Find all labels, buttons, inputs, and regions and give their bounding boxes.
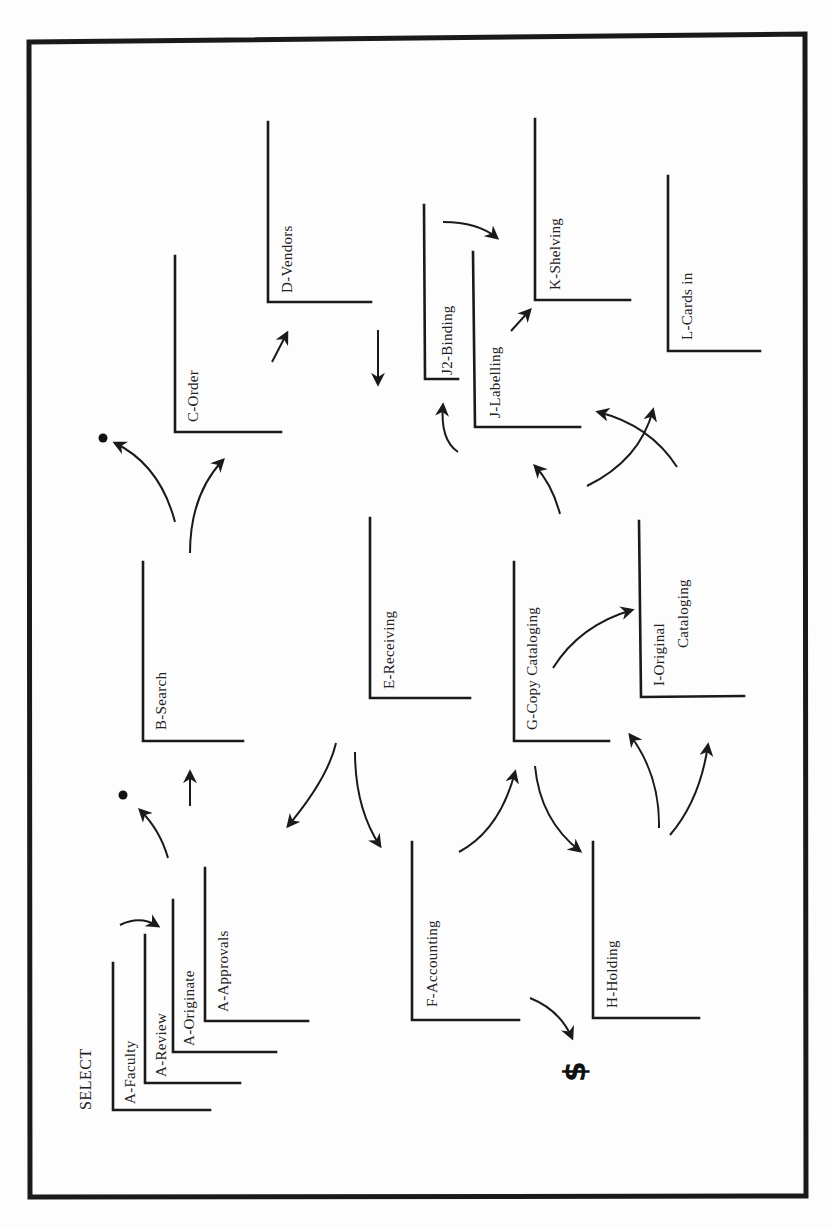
arrow-icon bbox=[630, 735, 659, 828]
arrow-icon bbox=[670, 745, 708, 835]
arrow-icon bbox=[443, 222, 497, 238]
station-label: E-Receiving bbox=[381, 611, 397, 689]
station-label: A-Review bbox=[153, 1013, 169, 1077]
station-label: J-Labelling bbox=[487, 346, 503, 418]
station-j2-binding: J2-Binding bbox=[424, 205, 458, 379]
station-label: H-Holding bbox=[604, 940, 620, 1008]
arrow-icon bbox=[530, 998, 572, 1038]
arrow-icon bbox=[355, 752, 380, 846]
station-d-vendors: D-Vendors bbox=[268, 122, 371, 302]
station-label: C-Order bbox=[185, 370, 201, 422]
arrow-icon bbox=[535, 466, 560, 514]
station-k-shelving: K-Shelving bbox=[535, 119, 630, 300]
select-heading: SELECT bbox=[77, 1048, 94, 1110]
arrow-icon bbox=[115, 443, 175, 522]
arrow-icon bbox=[587, 410, 653, 486]
arrow-icon bbox=[511, 310, 530, 331]
arrow-icon bbox=[443, 405, 458, 452]
station-label: A-Faculty bbox=[122, 1040, 138, 1104]
station-label-line1: I-Original bbox=[651, 623, 667, 686]
workflow-diagram: A-Faculty A-Review A-Originate A-Approva… bbox=[0, 0, 833, 1228]
station-label: G-Copy Cataloging bbox=[524, 607, 540, 730]
arrow-icon bbox=[140, 810, 168, 858]
station-j-labelling: J-Labelling bbox=[473, 252, 580, 427]
station-label: J2-Binding bbox=[439, 305, 455, 375]
station-label: A-Originate bbox=[181, 970, 197, 1046]
arrow-icon bbox=[272, 333, 287, 362]
arrow-icon bbox=[190, 460, 223, 553]
station-c-order: C-Order bbox=[175, 256, 281, 432]
station-g-copy-cataloging: G-Copy Cataloging bbox=[514, 562, 609, 741]
station-f-accounting: F-Accounting bbox=[412, 842, 519, 1020]
station-label-line2: Cataloging bbox=[675, 579, 691, 648]
arrow-icon bbox=[535, 766, 580, 851]
station-label: D-Vendors bbox=[279, 225, 295, 293]
station-a-approvals: A-Approvals bbox=[205, 868, 308, 1021]
station-label: K-Shelving bbox=[547, 218, 563, 290]
terminal-dot-icon bbox=[119, 791, 128, 800]
station-h-holding: H-Holding bbox=[593, 842, 699, 1018]
station-b-search: B-Search bbox=[143, 562, 243, 741]
arrow-icon bbox=[120, 920, 158, 926]
station-label: B-Search bbox=[153, 672, 169, 730]
station-label: F-Accounting bbox=[424, 920, 440, 1007]
arrow-icon bbox=[459, 772, 515, 852]
station-e-receiving: E-Receiving bbox=[370, 518, 470, 698]
arrow-icon bbox=[598, 412, 677, 467]
terminal-dot-icon bbox=[99, 434, 108, 443]
station-i-original-cataloging: I-Original Cataloging bbox=[639, 521, 744, 697]
dollar-icon: $ bbox=[557, 1061, 592, 1082]
station-l-cards-in: L-Cards in bbox=[668, 176, 760, 351]
arrow-icon bbox=[288, 743, 336, 826]
station-label: L-Cards in bbox=[679, 272, 695, 340]
arrow-icon bbox=[553, 610, 632, 668]
station-label: A-Approvals bbox=[215, 930, 231, 1012]
